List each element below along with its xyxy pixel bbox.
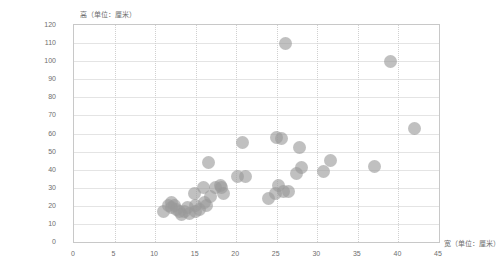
data-point <box>239 170 252 183</box>
gridline-horizontal <box>74 97 439 98</box>
gridline-horizontal <box>74 188 439 189</box>
data-point <box>217 187 230 200</box>
x-axis-tick-label: 35 <box>342 250 372 257</box>
gridline-horizontal <box>74 115 439 116</box>
gridline-horizontal <box>74 152 439 153</box>
gridline-vertical <box>115 25 116 242</box>
y-axis-tick-label: 60 <box>30 130 56 137</box>
y-axis-tick-label: 80 <box>30 93 56 100</box>
x-axis-tick-label: 40 <box>382 250 412 257</box>
gridline-horizontal <box>74 224 439 225</box>
x-axis-tick-label: 30 <box>301 250 331 257</box>
y-axis-tick-label: 20 <box>30 202 56 209</box>
gridline-horizontal <box>74 170 439 171</box>
gridline-horizontal <box>74 43 439 44</box>
data-point <box>202 156 215 169</box>
gridline-horizontal <box>74 134 439 135</box>
plot-area <box>73 24 440 243</box>
x-axis-tick-label: 0 <box>58 250 88 257</box>
y-axis-tick-label: 10 <box>30 220 56 227</box>
x-axis-tick-label: 10 <box>139 250 169 257</box>
y-axis-tick-label: 30 <box>30 184 56 191</box>
x-axis-tick-label: 20 <box>220 250 250 257</box>
data-point <box>236 136 249 149</box>
y-axis-tick-label: 50 <box>30 148 56 155</box>
data-point <box>384 55 397 68</box>
data-point <box>317 165 330 178</box>
y-axis-tick-label: 110 <box>30 39 56 46</box>
scatter-chart: 高（单位：厘米） 0102030405060708090100110120 05… <box>0 0 503 277</box>
data-point <box>295 161 308 174</box>
gridline-horizontal <box>74 79 439 80</box>
gridline-vertical <box>236 25 237 242</box>
gridline-vertical <box>358 25 359 242</box>
y-axis-tick-label: 40 <box>30 166 56 173</box>
x-axis-tick-label: 45 <box>423 250 453 257</box>
data-point <box>275 132 288 145</box>
data-point <box>279 37 292 50</box>
y-axis-tick-label: 120 <box>30 21 56 28</box>
data-point <box>324 154 337 167</box>
y-axis-tick-label: 90 <box>30 75 56 82</box>
y-axis-tick-label: 0 <box>30 238 56 245</box>
data-point <box>282 185 295 198</box>
x-axis-tick-label: 5 <box>99 250 129 257</box>
gridline-vertical <box>398 25 399 242</box>
gridline-vertical <box>317 25 318 242</box>
x-axis-tick-label: 15 <box>180 250 210 257</box>
y-axis-tick-label: 70 <box>30 111 56 118</box>
x-axis-tick-label: 25 <box>261 250 291 257</box>
x-axis-title: 宽（单位：厘米） <box>444 238 500 248</box>
data-point <box>408 122 421 135</box>
y-axis-tick-label: 100 <box>30 57 56 64</box>
gridline-vertical <box>155 25 156 242</box>
data-point <box>368 160 381 173</box>
gridline-horizontal <box>74 206 439 207</box>
y-axis-title: 高（单位：厘米） <box>80 9 136 19</box>
